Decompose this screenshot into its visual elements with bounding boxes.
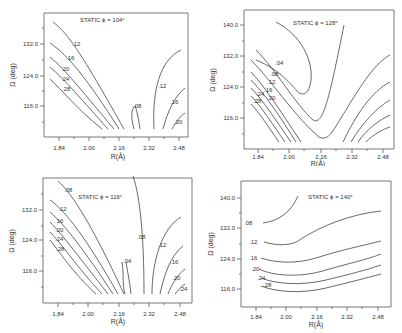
x-tick-label: 2.48 xyxy=(173,145,185,151)
svg-text:.28: .28 xyxy=(253,98,262,104)
y-axis-label: Ω (deg) xyxy=(207,232,215,256)
x-tick-label: 1.84 xyxy=(250,314,262,320)
x-tick-label: 2.48 xyxy=(174,311,186,317)
svg-text:.08: .08 xyxy=(133,103,142,109)
y-tick-label: 124.0 xyxy=(220,256,236,262)
svg-text:.12: .12 xyxy=(158,242,167,248)
x-axis-label: R(Å) xyxy=(111,152,125,161)
svg-text:.16: .16 xyxy=(55,218,64,224)
y-tick-label: 140.0 xyxy=(223,22,239,28)
x-axis-label: R(Å) xyxy=(311,159,325,166)
y-axis-label: Ω (deg) xyxy=(209,68,217,92)
y-tick-label: 132.0 xyxy=(22,207,38,213)
svg-text:.20: .20 xyxy=(172,275,181,281)
svg-text:.24: .24 xyxy=(256,91,265,97)
y-tick-label: 132.0 xyxy=(23,41,39,47)
x-tick-label: 1.84 xyxy=(52,311,64,317)
svg-text:.28: .28 xyxy=(263,282,272,288)
svg-text:.08: .08 xyxy=(270,71,279,77)
svg-text:.28: .28 xyxy=(56,246,65,252)
svg-text:.12: .12 xyxy=(58,206,67,212)
svg-text:.24: .24 xyxy=(61,76,70,82)
x-tick-label: 2.00 xyxy=(82,311,94,317)
svg-text:.20: .20 xyxy=(267,95,276,101)
y-tick-label: 124.0 xyxy=(223,84,239,90)
contour-plot-phi-128: 140.0 132.0 124.0 116.0 1.84 2.00 2.16 2… xyxy=(201,0,402,166)
svg-text:.20: .20 xyxy=(61,66,70,72)
contour-plot-phi-104: 132.0 124.0 116.0 1.84 2.00 2.16 2.32 2.… xyxy=(0,0,201,166)
y-tick-label: 132.0 xyxy=(223,53,239,59)
y-tick-label: 124.0 xyxy=(22,237,38,243)
x-tick-label: 2.00 xyxy=(83,145,95,151)
y-tick-label: 116.0 xyxy=(22,268,37,274)
svg-text:.08: .08 xyxy=(137,234,146,240)
contour-lines xyxy=(50,22,185,129)
svg-text:.16: .16 xyxy=(66,55,75,61)
svg-text:.20: .20 xyxy=(174,119,183,125)
panel-title: STATIC ϕ = 128° xyxy=(293,20,338,26)
x-axis-label: R(Å) xyxy=(309,320,323,329)
y-tick-label: 140.0 xyxy=(220,195,236,201)
y-tick-label: 132.0 xyxy=(220,225,236,231)
contour-labels: .08 .12 .16 .20 .24 .28 xyxy=(244,220,272,288)
x-tick-label: 2.00 xyxy=(283,154,295,160)
y-axis-label: Ω (deg) xyxy=(9,63,17,87)
y-tick-label: 116.0 xyxy=(23,103,38,109)
x-tick-label: 2.32 xyxy=(143,311,155,317)
x-axis-label: R(Å) xyxy=(111,317,125,326)
x-tick-label: 2.32 xyxy=(341,314,353,320)
svg-text:.12: .12 xyxy=(267,79,276,85)
x-tick-label: 2.00 xyxy=(280,314,292,320)
svg-text:.24: .24 xyxy=(179,286,188,292)
svg-text:.20: .20 xyxy=(55,227,64,233)
svg-text:.24: .24 xyxy=(257,275,266,281)
x-tick-label: 2.32 xyxy=(346,154,358,160)
x-tick-label: 2.32 xyxy=(143,145,155,151)
svg-text:.16: .16 xyxy=(249,255,258,261)
x-tick-label: 1.84 xyxy=(53,145,65,151)
svg-text:.16: .16 xyxy=(170,99,179,105)
svg-text:.12: .12 xyxy=(72,41,81,47)
contour-plot-phi-116: 132.0 124.0 116.0 1.84 2.00 2.16 2.32 2.… xyxy=(0,166,201,333)
svg-text:.08: .08 xyxy=(244,220,253,226)
svg-text:.04: .04 xyxy=(123,258,132,264)
panel-title: STATIC ϕ = 104° xyxy=(80,17,125,23)
svg-text:.12: .12 xyxy=(158,83,167,89)
contour-plot-phi-140: 140.0 132.0 124.0 116.0 1.84 2.00 2.16 2… xyxy=(201,166,402,333)
svg-text:.20: .20 xyxy=(251,266,260,272)
svg-text:.16: .16 xyxy=(170,259,179,265)
svg-text:.12: .12 xyxy=(249,239,258,245)
x-tick-label: 2.16 xyxy=(113,311,125,317)
panel-title: STATIC ϕ = 116° xyxy=(78,194,123,200)
svg-text:.08: .08 xyxy=(64,187,73,193)
svg-text:.24: .24 xyxy=(55,236,64,242)
contour-lines xyxy=(259,196,381,292)
panel-title: STATIC ϕ = 140° xyxy=(308,194,353,200)
x-tick-label: 1.84 xyxy=(252,154,264,160)
svg-text:.28: .28 xyxy=(62,86,71,92)
y-tick-label: 116.0 xyxy=(223,115,238,121)
x-tick-label: 2.16 xyxy=(113,145,125,151)
x-tick-label: 2.16 xyxy=(311,314,323,320)
y-axis-label: Ω (deg) xyxy=(8,229,16,253)
x-tick-label: 2.48 xyxy=(377,154,389,160)
y-tick-label: 124.0 xyxy=(23,73,39,79)
y-tick-label: 116.0 xyxy=(220,286,235,292)
svg-text:.16: .16 xyxy=(264,87,273,93)
x-tick-label: 2.48 xyxy=(372,314,384,320)
svg-text:.04: .04 xyxy=(275,60,284,66)
